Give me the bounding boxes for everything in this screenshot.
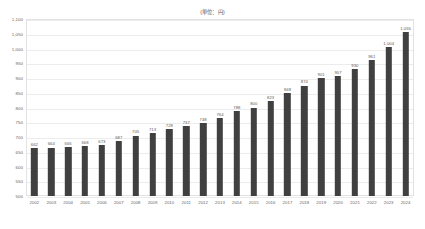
bar-value-label: 728 — [166, 123, 173, 128]
bar — [352, 69, 358, 196]
x-axis-tick-label: 2005 — [80, 200, 90, 205]
bar-slot: 668 — [77, 19, 94, 196]
y-axis-tick-label: 600 — [16, 164, 23, 169]
bar-slot: 705 — [127, 19, 144, 196]
y-axis-tick-label: 750 — [16, 120, 23, 125]
bar — [200, 123, 206, 196]
x-axis-tick-label: 2024 — [401, 200, 411, 205]
bar-value-label: 788 — [233, 105, 240, 110]
bar — [301, 86, 307, 196]
bar — [149, 133, 155, 196]
bar-slot: 687 — [110, 19, 127, 196]
x-axis-tick-label: 2022 — [367, 200, 377, 205]
bar-chart-figure: (単位：円) 1,1001,0501,000950900850800750700… — [0, 0, 425, 229]
bar-value-label: 800 — [250, 101, 257, 106]
y-axis-tick-label: 850 — [16, 90, 23, 95]
bar — [31, 148, 37, 196]
y-axis-tick-label: 950 — [16, 61, 23, 66]
bar-slot: 800 — [245, 19, 262, 196]
bar-slot: 961 — [363, 19, 380, 196]
y-axis-tick-label: 1,100 — [12, 17, 23, 22]
bar-value-label: 907 — [334, 70, 341, 75]
bar-value-label: 673 — [98, 139, 105, 144]
x-axis-tick-label: 2011 — [182, 200, 191, 205]
y-axis-tick-label: 500 — [16, 194, 23, 199]
y-axis-tick-label: 1,050 — [12, 31, 23, 36]
bar-value-label: 665 — [65, 141, 72, 146]
bar-slot: 713 — [144, 19, 161, 196]
bar — [132, 136, 138, 196]
bar — [234, 111, 240, 196]
bar-value-label: 664 — [48, 141, 55, 146]
bars-layer: 6626646656686736877057137287377487647888… — [26, 19, 414, 196]
bar-value-label: 737 — [183, 120, 190, 125]
bar-slot: 737 — [178, 19, 195, 196]
bar-slot: 748 — [195, 19, 212, 196]
bar-value-label: 713 — [149, 127, 156, 132]
x-axis-tick-label: 2008 — [131, 200, 141, 205]
y-axis: 1,1001,0501,0009509008508007507006506005… — [0, 19, 26, 196]
x-axis-tick-label: 2020 — [333, 200, 343, 205]
bar-value-label: 1,004 — [383, 41, 394, 46]
bar — [166, 129, 172, 196]
bar-value-label: 823 — [267, 95, 274, 100]
x-axis-tick-label: 2009 — [148, 200, 158, 205]
y-axis-tick-label: 900 — [16, 76, 23, 81]
bar-slot: 901 — [313, 19, 330, 196]
x-axis-tick-label: 2006 — [97, 200, 107, 205]
bar-value-label: 1,055 — [400, 26, 411, 31]
bar-value-label: 687 — [115, 135, 122, 140]
x-axis-tick-label: 2015 — [249, 200, 259, 205]
bar-slot: 673 — [93, 19, 110, 196]
bar-slot: 1,055 — [397, 19, 414, 196]
bar — [284, 93, 290, 196]
bar — [402, 32, 408, 196]
bar-slot: 848 — [279, 19, 296, 196]
bar-value-label: 668 — [81, 140, 88, 145]
y-axis-tick-label: 650 — [16, 149, 23, 154]
x-axis-tick-label: 2016 — [266, 200, 276, 205]
x-axis-tick-label: 2012 — [198, 200, 208, 205]
bar — [65, 147, 71, 196]
chart-unit-title: (単位：円) — [0, 8, 425, 15]
bar-value-label: 764 — [216, 112, 223, 117]
bar-slot: 930 — [347, 19, 364, 196]
bar-slot: 664 — [43, 19, 60, 196]
bar-slot: 764 — [212, 19, 229, 196]
bar-value-label: 930 — [351, 63, 358, 68]
x-axis-tick-label: 2003 — [46, 200, 56, 205]
x-axis-tick-label: 2018 — [299, 200, 309, 205]
bar — [116, 141, 122, 196]
x-axis-tick-label: 2010 — [164, 200, 174, 205]
bar — [217, 118, 223, 196]
y-axis-tick-label: 800 — [16, 105, 23, 110]
y-axis-tick-label: 550 — [16, 179, 23, 184]
bar-value-label: 848 — [284, 87, 291, 92]
bar-value-label: 705 — [132, 129, 139, 134]
x-axis-tick-label: 2004 — [63, 200, 73, 205]
bar — [267, 101, 273, 196]
x-axis-tick-label: 2002 — [30, 200, 40, 205]
bar-slot: 874 — [296, 19, 313, 196]
bar-slot: 665 — [60, 19, 77, 196]
bar-slot: 662 — [26, 19, 43, 196]
bar-slot: 728 — [161, 19, 178, 196]
bar — [48, 148, 54, 196]
bar-value-label: 874 — [301, 79, 308, 84]
bar-slot: 907 — [330, 19, 347, 196]
x-axis-tick-label: 2021 — [350, 200, 360, 205]
bar-value-label: 748 — [200, 117, 207, 122]
x-axis-tick-label: 2007 — [114, 200, 124, 205]
bar-slot: 788 — [228, 19, 245, 196]
bar — [99, 145, 105, 196]
x-axis-tick-label: 2023 — [384, 200, 394, 205]
bar — [318, 78, 324, 196]
bar — [385, 47, 391, 196]
x-axis-tick-label: 2013 — [215, 200, 225, 205]
x-axis: 2002200320042005200620072008200920102011… — [26, 197, 414, 211]
bar — [251, 108, 257, 197]
bar — [335, 76, 341, 196]
x-axis-tick-label: 2019 — [316, 200, 326, 205]
bar-value-label: 961 — [368, 54, 375, 59]
bar-slot: 1,004 — [380, 19, 397, 196]
